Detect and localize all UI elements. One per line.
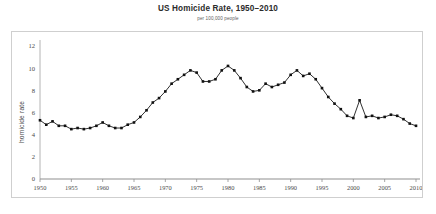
x-tick-label: 2000 — [347, 184, 360, 191]
data-point — [170, 82, 173, 85]
data-point — [377, 117, 380, 120]
y-tick-label: 4 — [32, 131, 36, 138]
x-tick-label: 1950 — [34, 184, 47, 191]
x-tick-label: 1970 — [159, 184, 172, 191]
chart-subtitle: per 100,000 people — [0, 16, 436, 21]
chart-title: US Homicide Rate, 1950–2010 — [0, 4, 436, 13]
data-point — [189, 69, 192, 72]
data-point — [408, 122, 411, 125]
x-tick-label: 2005 — [378, 184, 391, 191]
x-tick-label: 2010 — [410, 184, 422, 191]
data-point — [108, 125, 111, 128]
data-point — [296, 69, 299, 72]
data-point — [327, 96, 330, 99]
data-point — [271, 86, 274, 89]
data-point — [145, 109, 148, 112]
x-tick-label: 1955 — [65, 184, 78, 191]
data-point — [396, 115, 399, 118]
data-point — [277, 83, 280, 86]
data-point — [371, 115, 374, 118]
y-tick-label: 0 — [32, 175, 36, 182]
data-point — [51, 120, 54, 123]
data-point — [120, 127, 123, 130]
data-point — [239, 77, 242, 80]
y-axis-ticks: 024681012 — [28, 42, 35, 182]
homicide-rate-markers — [39, 65, 418, 131]
data-point — [246, 86, 249, 89]
x-tick-label: 1995 — [316, 184, 329, 191]
data-point — [152, 101, 155, 104]
data-point — [164, 90, 167, 93]
data-point — [340, 108, 343, 111]
data-point — [415, 125, 418, 128]
x-tick-label: 1975 — [190, 184, 203, 191]
data-point — [39, 119, 42, 122]
data-point — [76, 127, 79, 130]
y-tick-label: 12 — [28, 42, 35, 49]
data-point — [227, 65, 230, 68]
data-point — [352, 117, 355, 120]
data-point — [101, 121, 104, 124]
data-point — [302, 75, 305, 78]
data-point — [64, 125, 67, 128]
data-point — [383, 116, 386, 119]
data-point — [83, 128, 86, 131]
data-point — [365, 116, 368, 119]
homicide-rate-line — [40, 66, 416, 129]
x-tick-label: 1960 — [96, 184, 109, 191]
y-tick-label: 10 — [28, 65, 35, 72]
plot-area: 024681012 195019551960196519701975198019… — [12, 32, 422, 197]
y-tick-label: 8 — [32, 87, 36, 94]
data-point — [321, 87, 324, 90]
y-tick-label: 6 — [32, 109, 36, 116]
data-point — [208, 80, 211, 83]
x-tick-label: 1965 — [128, 184, 141, 191]
data-point — [195, 71, 198, 74]
data-point — [183, 74, 186, 77]
y-tick-label: 2 — [32, 153, 35, 160]
data-point — [314, 78, 317, 81]
x-tick-label: 1985 — [253, 184, 266, 191]
data-point — [139, 116, 142, 119]
x-tick-label: 1990 — [284, 184, 297, 191]
data-point — [333, 102, 336, 105]
x-axis-ticks: 1950195519601965197019751980198519901995… — [34, 179, 422, 191]
chart-figure: US Homicide Rate, 1950–2010 per 100,000 … — [0, 0, 436, 214]
data-point — [58, 125, 61, 128]
data-point — [133, 121, 136, 124]
data-point — [126, 123, 129, 126]
data-point — [158, 97, 161, 100]
data-point — [220, 69, 223, 72]
data-point — [70, 128, 73, 131]
x-tick-label: 1980 — [222, 184, 235, 191]
data-point — [177, 78, 180, 81]
data-point — [402, 118, 405, 121]
data-point — [258, 89, 261, 92]
data-point — [346, 115, 349, 118]
data-point — [114, 127, 117, 130]
data-point — [264, 82, 267, 85]
data-point — [202, 80, 205, 83]
data-point — [45, 123, 48, 126]
data-point — [233, 69, 236, 72]
data-point — [89, 127, 92, 130]
data-point — [358, 99, 361, 102]
data-point — [390, 113, 393, 116]
data-point — [95, 125, 98, 128]
plot-frame: 024681012 195019551960196519701975198019… — [11, 31, 423, 198]
data-point — [289, 74, 292, 77]
data-point — [308, 72, 311, 75]
y-axis-title: homicide rate — [18, 100, 25, 142]
data-point — [252, 90, 255, 93]
data-point — [214, 78, 217, 81]
data-point — [283, 81, 286, 84]
